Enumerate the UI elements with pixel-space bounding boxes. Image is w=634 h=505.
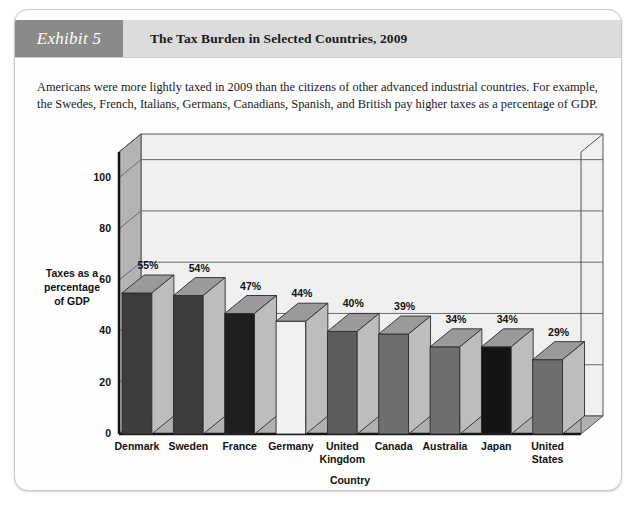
bar-value-label: 29% (531, 326, 587, 338)
bar-value-label: 34% (479, 313, 535, 325)
x-axis-title: Country (290, 474, 410, 486)
bar-value-label: 40% (325, 297, 381, 309)
bar (276, 303, 328, 434)
bar (430, 329, 482, 434)
exhibit-title-strip: The Tax Burden in Selected Countries, 20… (123, 20, 621, 57)
bar-value-label: 44% (274, 287, 330, 299)
exhibit-number-label: Exhibit 5 (37, 29, 102, 49)
y-axis-tick-label: 80 (77, 222, 111, 234)
bar (122, 275, 174, 434)
exhibit-card: Exhibit 5 The Tax Burden in Selected Cou… (14, 9, 622, 491)
bar (481, 329, 533, 434)
y-axis-title: Taxes as apercentageof GDP (33, 266, 111, 308)
bar (533, 342, 585, 434)
bar-value-label: 39% (377, 300, 433, 312)
header-divider (15, 57, 621, 58)
y-axis-tick-label: 40 (77, 324, 111, 336)
bar (379, 316, 431, 434)
bar (173, 278, 225, 434)
y-axis-tick-label: 20 (77, 376, 111, 388)
exhibit-header: Exhibit 5 The Tax Burden in Selected Cou… (15, 20, 621, 57)
bar (225, 296, 277, 434)
y-axis-tick-label: 100 (77, 171, 111, 183)
exhibit-description: Americans were more lightly taxed in 200… (37, 79, 602, 112)
bar-value-label: 47% (223, 280, 279, 292)
exhibit-number-tab: Exhibit 5 (15, 20, 123, 57)
bar (327, 313, 379, 434)
bar-value-label: 54% (171, 262, 227, 274)
page-title: The Tax Burden in Selected Countries, 20… (150, 31, 407, 47)
bar-value-label: 34% (428, 313, 484, 325)
x-axis-category-label: UnitedStates (517, 440, 579, 466)
bar-value-label: 55% (120, 259, 176, 271)
y-axis-tick-label: 0 (77, 427, 111, 439)
